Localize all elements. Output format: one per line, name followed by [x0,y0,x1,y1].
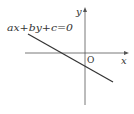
equation-label: ax+by+c=0 [7,22,73,33]
origin-label: O [87,55,94,65]
y-axis-arrow-icon [83,7,87,12]
x-axis-label: x [121,55,127,66]
coordinate-diagram: y x O ax+by+c=0 [0,0,134,114]
equation-line [28,34,113,82]
y-axis-label: y [75,6,82,17]
